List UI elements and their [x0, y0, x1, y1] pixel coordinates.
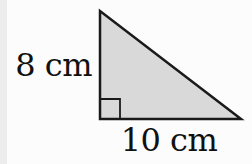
left-side-length-label: 8 cm	[15, 48, 92, 82]
figure-canvas: 8 cm 10 cm	[0, 0, 252, 164]
triangle-shape	[100, 11, 241, 119]
bottom-side-length-label: 10 cm	[121, 123, 218, 157]
